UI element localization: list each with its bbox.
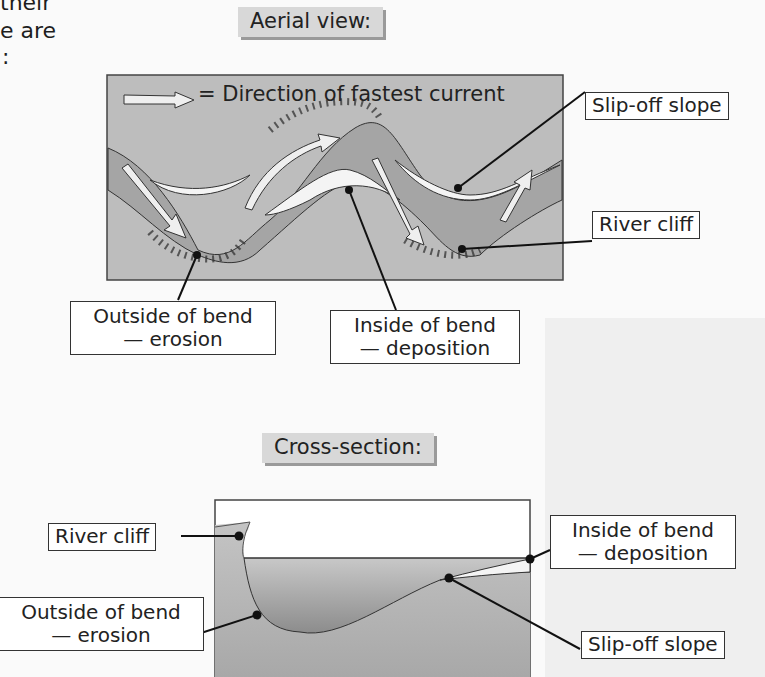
label-inside-bend-cross-line-1: Inside of bend (555, 519, 731, 542)
label-outside-bend-line-1: Outside of bend (75, 305, 271, 328)
label-river-cliff-aerial: River cliff (592, 211, 700, 239)
label-inside-bend-line-1: Inside of bend (335, 314, 515, 337)
label-inside-bend-cross-line-2: — deposition (555, 542, 731, 565)
aerial-view-diagram (107, 75, 592, 310)
label-outside-bend-cross: Outside of bend — erosion (0, 597, 204, 651)
label-slip-off-slope-cross: Slip-off slope (581, 631, 725, 659)
label-slip-off-slope-aerial: Slip-off slope (585, 92, 729, 120)
label-outside-bend-line-2: — erosion (75, 328, 271, 351)
label-inside-bend-line-2: — deposition (335, 337, 515, 360)
cross-section-diagram (181, 500, 580, 677)
aerial-legend-text: = Direction of fastest current (198, 82, 505, 106)
label-outside-bend-cross-line-1: Outside of bend (3, 601, 199, 624)
label-river-cliff-cross: River cliff (48, 523, 156, 551)
label-inside-bend-aerial: Inside of bend — deposition (330, 310, 520, 364)
cross-section-heading: Cross-section: (262, 433, 434, 463)
label-outside-bend-aerial: Outside of bend — erosion (70, 301, 276, 355)
label-inside-bend-cross: Inside of bend — deposition (550, 515, 736, 569)
label-outside-bend-cross-line-2: — erosion (3, 624, 199, 647)
